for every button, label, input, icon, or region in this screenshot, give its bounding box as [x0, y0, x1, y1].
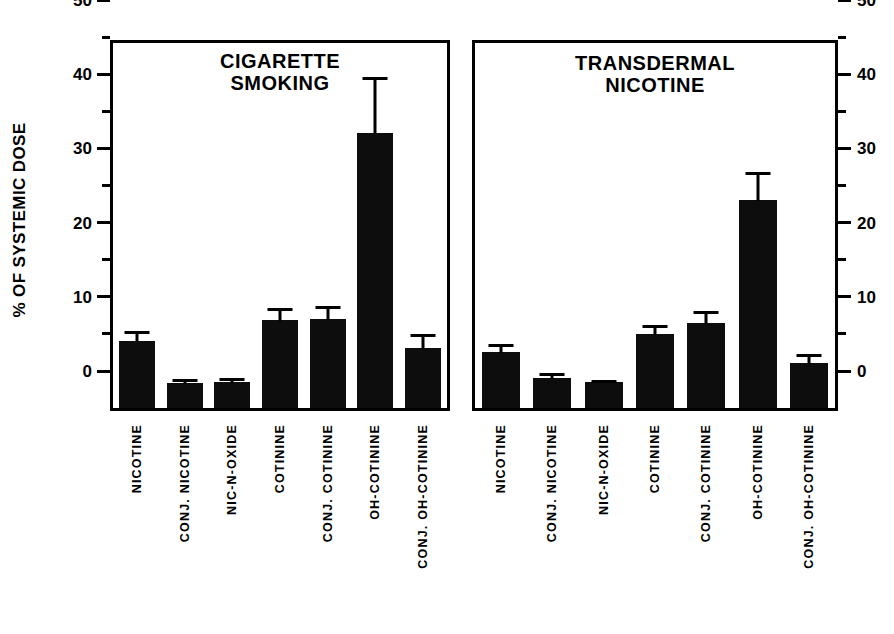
y-axis-right: 01020304050	[838, 0, 882, 371]
x-axis-labels-left: NICOTINECONJ. NICOTINENIC-N-OXIDECOTININ…	[113, 420, 447, 620]
error-bar	[422, 336, 425, 349]
error-bar	[756, 174, 759, 201]
x-label-slot-5: OH-COTININE	[352, 420, 400, 620]
panel-title-right-line1: TRANSDERMAL	[472, 52, 838, 74]
error-bar-cap	[694, 311, 719, 314]
x-axis-label: NICOTINE	[130, 424, 144, 493]
y-tick-major-10	[97, 295, 110, 298]
y-tick-label-30: 30	[857, 140, 876, 157]
bar-slot-1	[161, 43, 209, 408]
y-tick-major-40	[838, 73, 851, 76]
y-tick-label-50: 50	[857, 0, 876, 9]
y-tick-minor-35	[838, 110, 846, 113]
bar-slot-0	[113, 43, 161, 408]
error-bar	[705, 313, 708, 324]
panel-title-left-line1: CIGARETTE	[110, 50, 450, 72]
y-tick-minor-5	[102, 332, 110, 335]
bar[interactable]	[533, 378, 571, 408]
panel-title-left: CIGARETTE SMOKING	[110, 50, 450, 95]
bar[interactable]	[119, 341, 155, 408]
y-tick-label-20: 20	[857, 215, 876, 232]
x-label-slot-2: NIC-N-OXIDE	[578, 420, 629, 620]
error-bar-cap	[268, 308, 293, 311]
y-tick-major-10	[838, 295, 851, 298]
bar[interactable]	[585, 382, 623, 408]
error-bar-cap	[315, 306, 340, 309]
x-label-slot-4: CONJ. COTININE	[681, 420, 732, 620]
error-bar	[653, 327, 656, 335]
x-axis-label: OH-COTININE	[368, 424, 382, 520]
error-bar-cap	[642, 325, 667, 328]
y-tick-major-30	[838, 147, 851, 150]
x-label-slot-5: OH-COTININE	[732, 420, 783, 620]
x-axis-label: CONJ. OH-COTININE	[416, 424, 430, 569]
error-bar	[499, 346, 502, 353]
bar-group-left	[113, 43, 447, 408]
x-axis-label: CONJ. COTININE	[699, 424, 713, 542]
bar-slot-5	[352, 43, 400, 408]
bar-slot-3	[629, 43, 680, 408]
y-tick-minor-5	[838, 332, 846, 335]
y-tick-label-10: 10	[73, 289, 92, 306]
y-tick-label-40: 40	[73, 66, 92, 83]
bar-slot-2	[578, 43, 629, 408]
bar-slot-4	[681, 43, 732, 408]
error-bar-cap	[411, 334, 436, 337]
y-tick-label-50: 50	[73, 0, 92, 9]
y-tick-minor-15	[102, 258, 110, 261]
x-axis-label: CONJ. OH-COTININE	[802, 424, 816, 569]
y-tick-label-0: 0	[857, 363, 866, 380]
y-tick-major-20	[97, 221, 110, 224]
bar-slot-6	[399, 43, 447, 408]
y-tick-minor-25	[102, 184, 110, 187]
error-bar-cap	[591, 380, 616, 383]
panel-title-right: TRANSDERMAL NICOTINE	[472, 52, 838, 97]
y-axis-left: 01020304050	[66, 0, 110, 371]
bar[interactable]	[357, 133, 393, 408]
x-label-slot-3: COTININE	[256, 420, 304, 620]
bar[interactable]	[687, 323, 725, 408]
bar[interactable]	[790, 363, 828, 408]
x-axis-label: CONJ. COTININE	[321, 424, 335, 542]
x-axis-label: NIC-N-OXIDE	[225, 424, 239, 515]
x-label-slot-0: NICOTINE	[113, 420, 161, 620]
y-tick-major-50	[97, 0, 110, 2]
x-label-slot-3: COTININE	[629, 420, 680, 620]
y-tick-major-0	[97, 370, 110, 373]
x-axis-label: OH-COTININE	[751, 424, 765, 520]
error-bar-cap	[172, 379, 197, 382]
figure-root: % OF SYSTEMIC DOSE 01020304050 CIGARETTE…	[0, 0, 894, 634]
x-axis-label: COTININE	[273, 424, 287, 493]
y-tick-major-30	[97, 147, 110, 150]
y-tick-label-30: 30	[73, 140, 92, 157]
x-label-slot-6: CONJ. OH-COTININE	[784, 420, 835, 620]
x-axis-label: CONJ. NICOTINE	[178, 424, 192, 542]
error-bar-cap	[488, 344, 513, 347]
x-axis-label: NIC-N-OXIDE	[597, 424, 611, 515]
error-bar	[279, 310, 282, 322]
bar[interactable]	[214, 382, 250, 408]
y-axis-title: % OF SYSTEMIC DOSE	[0, 0, 40, 440]
bar[interactable]	[405, 348, 441, 408]
y-tick-label-10: 10	[857, 289, 876, 306]
bar[interactable]	[482, 352, 520, 408]
bar[interactable]	[636, 334, 674, 408]
bar-slot-2	[208, 43, 256, 408]
bar[interactable]	[310, 319, 346, 408]
y-tick-major-20	[838, 221, 851, 224]
y-tick-major-40	[97, 73, 110, 76]
bar-slot-3	[256, 43, 304, 408]
x-axis-label: COTININE	[648, 424, 662, 493]
bar-slot-1	[526, 43, 577, 408]
bar[interactable]	[167, 383, 203, 408]
x-label-slot-0: NICOTINE	[475, 420, 526, 620]
error-bar	[135, 333, 138, 342]
y-tick-minor-15	[838, 258, 846, 261]
y-tick-label-40: 40	[857, 66, 876, 83]
y-tick-minor-45	[102, 36, 110, 39]
bar[interactable]	[262, 320, 298, 408]
y-tick-major-0	[838, 370, 851, 373]
x-label-slot-2: NIC-N-OXIDE	[208, 420, 256, 620]
panel-cigarette-smoking: CIGARETTE SMOKING	[110, 40, 450, 411]
bar[interactable]	[739, 200, 777, 408]
